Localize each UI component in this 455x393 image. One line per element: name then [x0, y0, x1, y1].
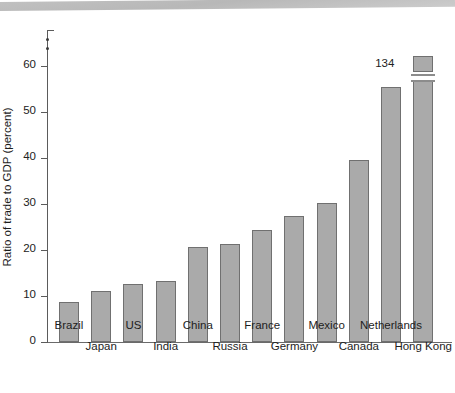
bar-break-marks: [411, 74, 435, 83]
y-axis-break-marker: [46, 38, 50, 60]
category-label-hong-kong: Hong Kong: [394, 340, 452, 352]
value-label-hong-kong: 134: [375, 57, 394, 69]
category-label-netherlands: Netherlands: [360, 319, 422, 331]
y-tick-label-10: 10: [23, 288, 36, 300]
y-tick-label-30: 30: [23, 196, 36, 208]
bar-india: [156, 281, 176, 342]
bar-canada: [349, 160, 369, 342]
bar-japan: [91, 291, 111, 342]
y-axis-top-cap: [47, 30, 54, 31]
y-tick-20: 20: [41, 250, 48, 251]
y-tick-0: 0: [41, 342, 48, 343]
y-axis-title: Ratio of trade to GDP (percent): [1, 107, 13, 266]
plot-area: Ratio of trade to GDP (percent) 01020304…: [47, 30, 452, 343]
y-tick-label-0: 0: [30, 334, 36, 346]
y-tick-10: 10: [41, 296, 48, 297]
y-tick-label-40: 40: [23, 150, 36, 162]
category-label-germany: Germany: [271, 340, 318, 352]
bar-netherlands: [381, 87, 401, 342]
category-label-china: China: [183, 319, 213, 331]
bar-us: [123, 284, 143, 342]
y-tick-40: 40: [41, 158, 48, 159]
y-tick-50: 50: [41, 112, 48, 113]
y-tick-label-60: 60: [23, 58, 36, 70]
bar-chart: Ratio of trade to GDP (percent) 01020304…: [0, 0, 455, 393]
y-tick-60: 60: [41, 66, 48, 67]
y-tick-label-20: 20: [23, 242, 36, 254]
category-label-russia: Russia: [212, 340, 247, 352]
category-label-canada: Canada: [339, 340, 379, 352]
category-label-france: France: [244, 319, 280, 331]
category-label-japan: Japan: [86, 340, 117, 352]
y-tick-label-50: 50: [23, 104, 36, 116]
y-tick-30: 30: [41, 204, 48, 205]
bar-germany: [284, 216, 304, 342]
category-label-brazil: Brazil: [55, 319, 84, 331]
bar-hong-kong: [413, 82, 433, 342]
bar-russia: [220, 244, 240, 342]
category-label-mexico: Mexico: [308, 319, 344, 331]
category-label-india: India: [153, 340, 178, 352]
bar-top-segment-hong-kong: [413, 56, 433, 72]
category-label-us: US: [125, 319, 141, 331]
